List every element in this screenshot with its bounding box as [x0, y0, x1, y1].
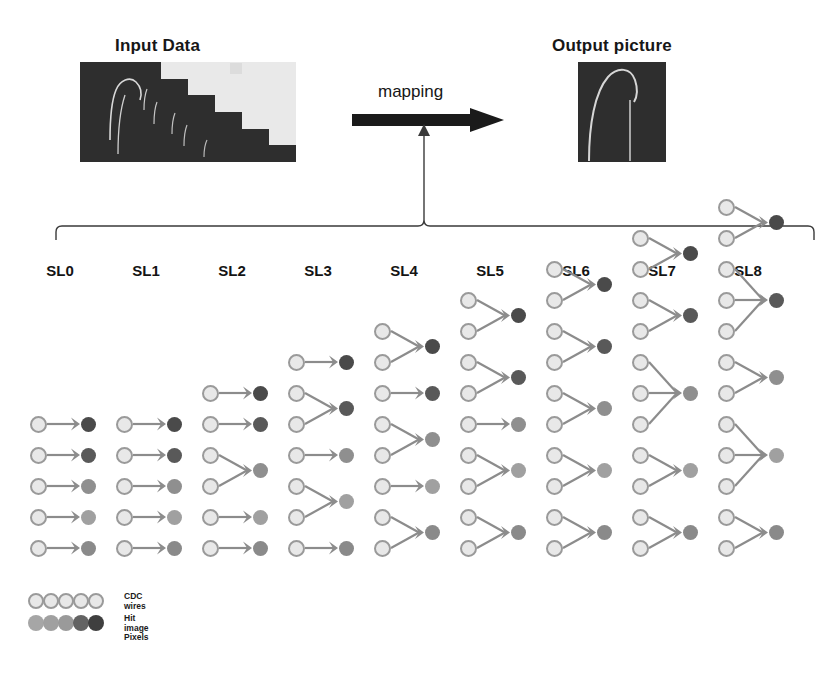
cdc-wire-node — [288, 478, 305, 495]
arrow-head-icon — [157, 449, 166, 462]
cdc-wire-node — [632, 385, 649, 402]
hit-image-pixel-node — [253, 463, 268, 478]
cdc-wire-node — [546, 509, 563, 526]
wire-to-pixel-line — [477, 362, 505, 378]
cdc-wire-node — [460, 354, 477, 371]
cdc-wire-node — [718, 478, 735, 495]
hit-image-pixel-node — [683, 308, 698, 323]
wire-to-pixel-line — [649, 517, 677, 533]
arrow-head-icon — [415, 340, 424, 353]
wire-to-pixel-line — [477, 300, 505, 316]
hit-image-pixel-node — [683, 246, 698, 261]
arrow-head-icon — [71, 480, 80, 493]
arrow-head-icon — [157, 542, 166, 555]
hit-image-pixel-node — [339, 448, 354, 463]
hit-image-pixel-node — [167, 541, 182, 556]
arrow-head-icon — [587, 402, 596, 415]
cdc-wire-node — [632, 540, 649, 557]
cdc-wire-node — [546, 385, 563, 402]
cdc-wire-node — [632, 261, 649, 278]
connector-arrows-sl2 — [0, 0, 834, 678]
arrow-head-icon — [243, 464, 252, 477]
arrow-head-icon — [673, 309, 682, 322]
legend-wire-dot — [28, 593, 44, 609]
legend-pixel-dot — [73, 615, 89, 631]
cdc-wire-node — [632, 323, 649, 340]
arrow-head-icon — [587, 464, 596, 477]
cdc-wire-node — [374, 323, 391, 340]
hit-image-pixel-node — [253, 386, 268, 401]
cdc-wire-node — [546, 354, 563, 371]
arrow-head-icon — [71, 449, 80, 462]
wire-to-pixel-line — [563, 347, 591, 363]
wire-to-pixel-line — [649, 455, 677, 471]
arrow-head-icon — [71, 511, 80, 524]
cdc-wire-node — [460, 509, 477, 526]
cdc-wire-node — [374, 447, 391, 464]
wire-to-pixel-line — [735, 362, 763, 378]
cdc-wire-node — [30, 416, 47, 433]
wire-to-pixel-line — [477, 316, 505, 332]
cdc-wire-node — [460, 447, 477, 464]
cdc-wire-node — [632, 292, 649, 309]
hit-image-pixel-node — [511, 370, 526, 385]
wire-to-pixel-line — [391, 331, 419, 347]
arrow-head-icon — [415, 387, 424, 400]
wire-to-pixel-line — [391, 440, 419, 456]
hit-image-pixel-node — [167, 448, 182, 463]
hit-image-pixel-node — [425, 525, 440, 540]
cdc-wire-node — [374, 416, 391, 433]
wire-to-pixel-line — [391, 347, 419, 363]
connector-arrows-sl7 — [0, 0, 834, 678]
arrow-head-icon — [329, 356, 338, 369]
wire-to-pixel-line — [477, 471, 505, 487]
hit-image-pixel-node — [339, 355, 354, 370]
wire-to-pixel-line — [649, 471, 677, 487]
cdc-wire-node — [288, 416, 305, 433]
wire-to-pixel-line — [649, 254, 677, 270]
cdc-wire-node — [632, 478, 649, 495]
legend-pixel-dot — [58, 615, 74, 631]
diagram-canvas: Input Data Output picture mapping — [0, 0, 834, 678]
arrow-head-icon — [501, 418, 510, 431]
cdc-wire-node — [116, 478, 133, 495]
cdc-wire-node — [460, 478, 477, 495]
cdc-wire-node — [30, 447, 47, 464]
hit-image-pixel-node — [253, 417, 268, 432]
hit-image-pixel-node — [769, 448, 784, 463]
hit-image-pixel-node — [511, 308, 526, 323]
wire-to-pixel-line — [649, 238, 677, 254]
arrow-head-icon — [587, 340, 596, 353]
arrow-head-icon — [501, 309, 510, 322]
cdc-wire-node — [718, 416, 735, 433]
cdc-wire-node — [460, 292, 477, 309]
cdc-wire-node — [718, 230, 735, 247]
wire-to-pixel-line — [305, 393, 333, 409]
legend-label-cdc-wires: CDCwires — [124, 592, 146, 611]
cdc-wire-node — [202, 385, 219, 402]
arrow-head-icon — [243, 542, 252, 555]
connector-arrows-sl8 — [0, 0, 834, 678]
wire-to-pixel-line — [735, 269, 763, 300]
legend-wire-dot — [43, 593, 59, 609]
arrow-head-icon — [329, 402, 338, 415]
arrow-head-icon — [243, 418, 252, 431]
wire-to-pixel-line — [477, 517, 505, 533]
connector-arrows-sl0 — [0, 0, 834, 678]
arrow-head-icon — [71, 542, 80, 555]
cdc-wire-node — [718, 323, 735, 340]
hit-image-pixel-node — [339, 494, 354, 509]
legend-label-line2: wires — [124, 602, 146, 612]
cdc-wire-node — [116, 447, 133, 464]
wire-to-pixel-line — [563, 331, 591, 347]
cdc-wire-node — [718, 292, 735, 309]
hit-image-pixel-node — [81, 417, 96, 432]
cdc-wire-node — [718, 509, 735, 526]
cdc-wire-node — [202, 478, 219, 495]
cdc-wire-node — [460, 385, 477, 402]
wire-to-pixel-line — [563, 533, 591, 549]
legend-wire-dot — [88, 593, 104, 609]
connector-arrows-sl4 — [0, 0, 834, 678]
hit-image-pixel-node — [425, 432, 440, 447]
hit-image-pixel-node — [683, 463, 698, 478]
